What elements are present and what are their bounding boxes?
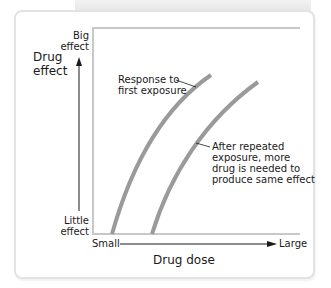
curve1-annotation: Response to first exposure [118,74,187,96]
y-max-label-line2: effect [58,41,89,52]
y-axis-title: Drug effect [33,50,67,78]
y-min-label-line1: Little [58,215,89,226]
curve2-annotation-line3: drug is needed to [212,163,315,174]
y-min-label-line2: effect [58,226,89,237]
curve2-annotation: After repeated exposure, more drug is ne… [212,141,315,185]
curve2-annotation-line4: produce same effect [212,174,315,185]
curve2-annotation-line1: After repeated [212,141,315,152]
curve2-annotation-line2: exposure, more [212,152,315,163]
y-max-label: Big effect [58,30,89,52]
y-axis-title-line2: effect [33,64,67,78]
x-axis-arrowhead-icon [267,241,277,247]
x-axis-title: Drug dose [153,253,215,267]
y-axis-arrowhead-icon [76,57,82,66]
y-max-label-line1: Big [58,30,89,41]
curve1-annotation-line1: Response to [118,74,187,85]
x-max-label: Large [279,238,307,249]
curve1-annotation-line2: first exposure [118,85,187,96]
x-min-label: Small [92,238,120,249]
y-axis-title-line1: Drug [33,50,67,64]
leader-line-curve2 [196,143,210,147]
y-min-label: Little effect [58,215,89,237]
